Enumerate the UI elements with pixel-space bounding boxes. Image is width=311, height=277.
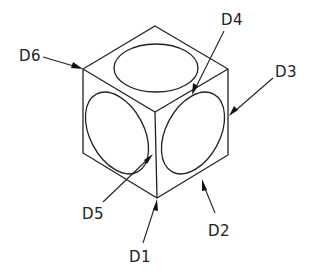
- label-d5: D5: [82, 205, 104, 223]
- arrow-d2-icon: [202, 179, 207, 191]
- cube-inner-edges: [83, 69, 228, 112]
- left-face-hole: [73, 81, 162, 184]
- arrow-d3-icon: [229, 106, 238, 116]
- labels: D6 D4 D3 D5 D1 D2: [19, 11, 297, 266]
- label-d1: D1: [129, 248, 151, 266]
- arrow-d6-icon: [71, 62, 83, 69]
- label-d3: D3: [275, 63, 297, 81]
- top-face-hole: [114, 44, 198, 92]
- cube-center-edge: [155, 112, 157, 198]
- leaders: [43, 31, 273, 243]
- cube: [83, 26, 228, 198]
- right-face-hole: [149, 81, 238, 184]
- cube-diagram: D6 D4 D3 D5 D1 D2: [0, 0, 311, 277]
- label-d6: D6: [19, 47, 41, 65]
- leader-d3: [235, 78, 273, 111]
- label-d4: D4: [221, 11, 243, 29]
- label-d2: D2: [208, 222, 230, 240]
- arrow-d1-icon: [153, 199, 158, 211]
- leader-d1: [143, 206, 155, 243]
